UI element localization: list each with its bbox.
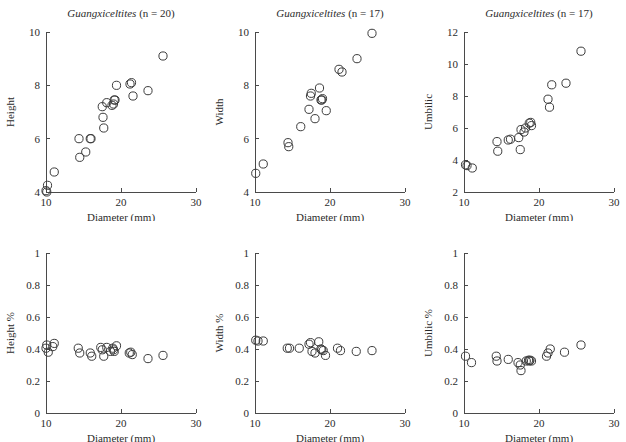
data-point <box>494 147 502 155</box>
data-point <box>468 164 476 172</box>
data-point <box>545 103 553 111</box>
data-point <box>577 47 585 55</box>
panel-title: Guangxiceltites (n = 20) <box>67 7 175 20</box>
data-point <box>82 148 90 156</box>
data-point <box>353 55 361 63</box>
data-point-group <box>461 47 585 172</box>
data-point <box>322 107 330 115</box>
data-point <box>548 81 556 89</box>
x-tick-label: 30 <box>191 417 203 429</box>
data-point-group <box>42 339 167 362</box>
data-point <box>504 355 512 363</box>
y-tick-label: 0.6 <box>444 311 458 323</box>
data-point <box>305 105 313 113</box>
y-tick-label: 2 <box>453 186 459 198</box>
x-axis-title: Diameter (mm) <box>296 432 364 442</box>
x-tick-label: 20 <box>116 417 128 429</box>
data-point <box>259 160 267 168</box>
x-tick-label: 10 <box>459 417 471 429</box>
data-point <box>517 367 525 375</box>
x-tick-label: 30 <box>191 196 203 208</box>
panel-title-genus: Guangxiceltites <box>276 7 348 19</box>
chart-panel-height-vs-diameter: Guangxiceltites (n = 20)46810102030Diame… <box>0 0 209 221</box>
y-tick-label: 6 <box>244 133 250 145</box>
y-tick-label: 12 <box>447 26 458 38</box>
y-axis-title: Umbilic <box>422 94 434 130</box>
y-tick-label: 0.2 <box>235 375 249 387</box>
panel-title-count: (n = 20) <box>139 7 175 20</box>
y-tick-label: 8 <box>35 79 41 91</box>
data-point-group <box>252 29 376 177</box>
chart-panel-umbilic-vs-diameter: Guangxiceltites (n = 17)24681012102030Di… <box>418 0 626 221</box>
panel-title-count: (n = 17) <box>348 7 384 20</box>
x-tick-label: 30 <box>400 196 412 208</box>
y-tick-label: 0.4 <box>444 343 458 355</box>
data-point <box>99 113 107 121</box>
x-tick-label: 10 <box>250 417 262 429</box>
x-tick-label: 20 <box>116 196 128 208</box>
y-tick-label: 1 <box>453 247 459 259</box>
chart-panel-height-pct-vs-diameter: 00.20.40.60.81102030Diameter (mm)Height … <box>0 221 209 442</box>
x-tick-label: 10 <box>41 417 53 429</box>
data-point <box>252 169 260 177</box>
data-point-group <box>252 336 376 359</box>
panel-title-genus: Guangxiceltites <box>67 7 139 19</box>
y-tick-label: 10 <box>238 26 250 38</box>
data-point <box>516 146 524 154</box>
data-point <box>311 115 319 123</box>
y-axis-title: Umbilic % <box>422 309 434 357</box>
data-point <box>368 347 376 355</box>
data-point-group <box>461 341 585 375</box>
data-point <box>306 339 314 347</box>
x-axis-title: Diameter (mm) <box>505 211 573 221</box>
data-point <box>144 87 152 95</box>
y-axis-title: Width % <box>213 314 225 353</box>
data-point <box>560 348 568 356</box>
data-point <box>159 52 167 60</box>
panel-title-genus: Guangxiceltites <box>485 7 557 19</box>
data-point <box>544 95 552 103</box>
data-point-group <box>42 52 167 196</box>
panel-title: Guangxiceltites (n = 17) <box>485 7 593 20</box>
y-axis-title: Height <box>4 97 16 127</box>
x-tick-label: 30 <box>400 417 412 429</box>
y-axis-title: Height % <box>4 312 16 354</box>
data-point <box>259 337 267 345</box>
x-tick-label: 20 <box>534 417 546 429</box>
data-point <box>74 344 82 352</box>
data-point <box>76 349 84 357</box>
y-tick-label: 0.2 <box>26 375 40 387</box>
x-tick-label: 20 <box>325 417 337 429</box>
data-point <box>315 84 323 92</box>
data-point <box>88 352 96 360</box>
data-point <box>129 92 137 100</box>
data-point <box>352 347 360 355</box>
chart-panel-width-pct-vs-diameter: 00.20.40.60.81102030Diameter (mm)Width % <box>209 221 418 442</box>
x-tick-label: 10 <box>459 196 471 208</box>
y-tick-label: 0.6 <box>26 311 40 323</box>
data-point <box>128 351 136 359</box>
y-tick-label: 8 <box>453 90 459 102</box>
data-point <box>368 29 376 37</box>
data-point <box>321 351 329 359</box>
y-tick-label: 6 <box>453 122 459 134</box>
data-point <box>75 135 83 143</box>
y-tick-label: 0.4 <box>235 343 249 355</box>
x-tick-label: 10 <box>250 196 262 208</box>
y-tick-label: 0.2 <box>444 375 458 387</box>
x-tick-label: 20 <box>534 196 546 208</box>
data-point <box>50 168 58 176</box>
x-tick-label: 10 <box>41 196 53 208</box>
x-tick-label: 20 <box>325 196 337 208</box>
y-tick-label: 0.4 <box>26 343 40 355</box>
y-tick-label: 10 <box>29 26 41 38</box>
data-point <box>493 357 501 365</box>
data-point <box>577 341 585 349</box>
figure-container: Guangxiceltites (n = 20)46810102030Diame… <box>0 0 626 442</box>
panel-title: Guangxiceltites (n = 17) <box>276 7 384 20</box>
data-point <box>297 123 305 131</box>
y-axis-title: Width <box>213 98 225 126</box>
data-point <box>562 79 570 87</box>
y-tick-label: 0.8 <box>235 279 249 291</box>
chart-panel-umbilic-pct-vs-diameter: 00.20.40.60.81102030Diameter (mm)Umbilic… <box>418 221 626 442</box>
